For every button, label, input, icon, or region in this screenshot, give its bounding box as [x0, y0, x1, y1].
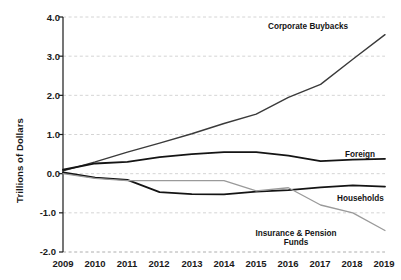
series-label-corporate-buybacks: Corporate Buybacks [268, 22, 348, 32]
series-line-households [63, 172, 385, 194]
gridlines [63, 17, 385, 252]
series-line-corporate-buybacks [63, 35, 385, 171]
series-label-insurance-pension-funds-line2: Funds [237, 238, 355, 248]
line-chart: Trillions of Dollars 4.0 3.0 2.0 1.0 0.0… [0, 0, 401, 280]
series-line-foreign [63, 152, 385, 170]
series-label-foreign: Foreign [345, 150, 375, 160]
series-label-households: Households [337, 194, 384, 204]
